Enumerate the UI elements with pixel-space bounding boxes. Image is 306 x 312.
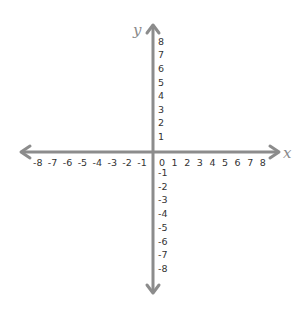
y-tick-label: 5 — [158, 77, 164, 88]
y-tick-label: 6 — [158, 63, 164, 74]
x-tick-label: -8 — [33, 157, 42, 168]
y-tick-labels: -8-7-6-5-4-3-2-112345678 — [158, 36, 167, 274]
coordinate-plane: x y -8-7-6-5-4-3-2-1012345678 -8-7-6-5-4… — [0, 0, 306, 312]
y-tick-label: -4 — [158, 208, 167, 219]
y-tick-label: 8 — [158, 36, 164, 47]
x-tick-label: -5 — [78, 157, 87, 168]
y-tick-label: 4 — [158, 90, 164, 101]
x-tick-label: 8 — [260, 157, 266, 168]
x-tick-label: 3 — [197, 157, 203, 168]
x-tick-label: -1 — [137, 157, 146, 168]
y-tick-label: -7 — [158, 249, 167, 260]
y-tick-label: 2 — [158, 117, 164, 128]
y-axis-label: y — [132, 21, 142, 39]
y-tick-label: -8 — [158, 263, 167, 274]
x-tick-label: -3 — [107, 157, 116, 168]
y-tick-label: 1 — [158, 131, 164, 142]
x-tick-label: 4 — [209, 157, 215, 168]
x-tick-label: 2 — [184, 157, 190, 168]
x-tick-label: 1 — [172, 157, 178, 168]
y-tick-label: -6 — [158, 236, 167, 247]
y-tick-label: -1 — [158, 167, 167, 178]
y-tick-label: 7 — [158, 49, 164, 60]
y-tick-label: 3 — [158, 104, 164, 115]
y-tick-label: -5 — [158, 222, 167, 233]
x-tick-label: -2 — [122, 157, 131, 168]
x-tick-label: -4 — [93, 157, 102, 168]
y-tick-label: -2 — [158, 181, 167, 192]
x-tick-label: 5 — [222, 157, 228, 168]
y-tick-label: -3 — [158, 194, 167, 205]
x-tick-labels: -8-7-6-5-4-3-2-1012345678 — [33, 157, 266, 168]
x-tick-label: 7 — [247, 157, 253, 168]
x-tick-label: 6 — [235, 157, 241, 168]
x-tick-label: -7 — [48, 157, 57, 168]
x-axis-label: x — [283, 144, 292, 162]
x-tick-label: -6 — [63, 157, 72, 168]
